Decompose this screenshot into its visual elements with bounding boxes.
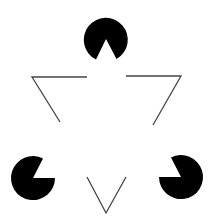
kanizsa-figure bbox=[0, 0, 214, 222]
pacman-bottom-left bbox=[11, 156, 55, 200]
pacman-bottom-right bbox=[159, 155, 203, 199]
kanizsa-svg bbox=[0, 0, 214, 222]
outline-top-right bbox=[126, 76, 181, 125]
pacman-top bbox=[84, 18, 128, 60]
outline-top-left bbox=[32, 77, 87, 122]
outline-bottom-v bbox=[87, 177, 126, 213]
